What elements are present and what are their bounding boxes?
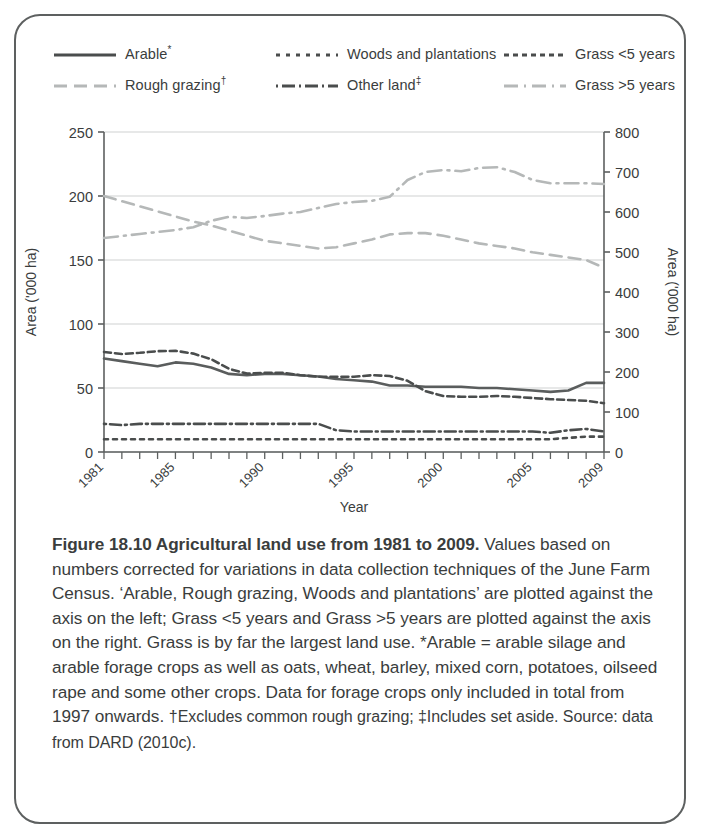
legend-label-other-land: Other land‡ <box>347 75 421 93</box>
x-axis-tick-1995: 1995 <box>325 460 356 491</box>
legend-item-woods: Woods and plantations <box>276 44 496 62</box>
legend-label-rough-grazing: Rough grazing† <box>125 75 226 93</box>
y-axis-right-tick-800: 800 <box>615 125 639 141</box>
y-axis-left-tick-150: 150 <box>69 253 93 269</box>
legend-swatch-other-land <box>276 78 338 90</box>
y-axis-left-tick-0: 0 <box>85 445 93 461</box>
series-line-other-land <box>104 424 604 433</box>
x-axis-title: Year <box>340 499 369 512</box>
x-axis-tick-1985: 1985 <box>146 460 177 491</box>
y-axis-right-tick-600: 600 <box>615 205 639 221</box>
legend-swatch-grass-gt5 <box>504 78 566 90</box>
y-axis-right-tick-0: 0 <box>615 445 623 461</box>
series-line-grass-5-years <box>104 167 604 238</box>
chart-axes <box>98 132 610 459</box>
chart-legend: Arable* Woods and plantations Grass <5 y… <box>54 44 664 106</box>
legend-swatch-arable <box>54 47 116 59</box>
y-axis-left-tick-250: 250 <box>69 125 93 141</box>
legend-item-other-land: Other land‡ <box>276 75 421 93</box>
y-axis-right-tick-200: 200 <box>615 365 639 381</box>
figure-caption-body: Values based on numbers corrected for va… <box>52 534 657 726</box>
y-axis-right-tick-400: 400 <box>615 285 639 301</box>
y-axis-right-tick-500: 500 <box>615 245 639 261</box>
series-line-grass-5-years <box>104 351 604 403</box>
legend-item-grass-lt5: Grass <5 years <box>504 44 675 62</box>
x-axis-tick-1981: 1981 <box>75 460 106 491</box>
figure-number-label: Figure 18.10 Agricultural land use from … <box>52 534 480 554</box>
legend-item-rough-grazing: Rough grazing† <box>54 75 226 93</box>
y-axis-left-title: Area ('000 ha) <box>23 248 39 336</box>
y-axis-right-tick-100: 100 <box>615 405 639 421</box>
x-axis-tick-2005: 2005 <box>504 460 535 491</box>
series-line-woods-and-plantations <box>104 437 604 440</box>
legend-label-arable: Arable* <box>125 44 172 62</box>
y-axis-right-tick-300: 300 <box>615 325 639 341</box>
y-axis-right-tick-700: 700 <box>615 165 639 181</box>
series-line-rough-grazing <box>104 196 604 268</box>
x-axis-tick-2009: 2009 <box>575 460 606 491</box>
series-line-arable <box>104 359 604 392</box>
line-chart: 0501001502002500100200300400500600700800… <box>16 112 684 512</box>
chart-gridlines <box>104 132 604 452</box>
y-axis-left-tick-200: 200 <box>69 189 93 205</box>
legend-label-woods: Woods and plantations <box>347 44 496 62</box>
legend-label-grass-gt5: Grass >5 years <box>575 75 675 93</box>
y-axis-right-title: Area ('000 ha) <box>665 248 681 336</box>
y-axis-left-tick-100: 100 <box>69 317 93 333</box>
legend-item-grass-gt5: Grass >5 years <box>504 75 675 93</box>
chart-series-layer <box>104 167 604 439</box>
figure-caption: Figure 18.10 Agricultural land use from … <box>52 532 660 755</box>
legend-swatch-rough-grazing <box>54 78 116 90</box>
legend-swatch-woods <box>276 47 338 59</box>
legend-label-grass-lt5: Grass <5 years <box>575 44 675 62</box>
chart-tick-labels: 0501001502002500100200300400500600700800… <box>69 125 639 491</box>
legend-swatch-grass-lt5 <box>504 47 566 59</box>
figure-container: Arable* Woods and plantations Grass <5 y… <box>14 14 686 824</box>
y-axis-left-tick-50: 50 <box>77 381 93 397</box>
x-axis-tick-1990: 1990 <box>236 460 267 491</box>
legend-item-arable: Arable* <box>54 44 172 62</box>
x-axis-tick-2000: 2000 <box>414 460 445 491</box>
